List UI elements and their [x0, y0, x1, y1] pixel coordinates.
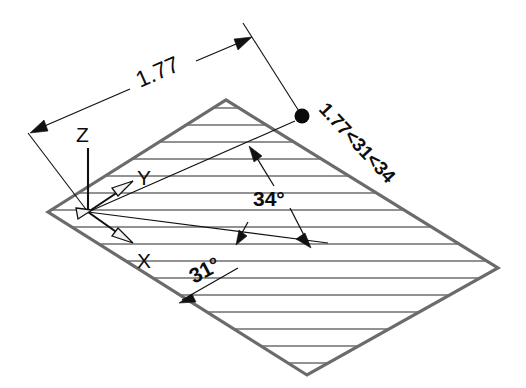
dimension-arrow-left-icon	[30, 120, 48, 133]
angle-34-label: 34°	[253, 187, 285, 210]
coordinate-point-marker	[295, 109, 310, 124]
axis-z-label: Z	[76, 123, 89, 146]
dimension-value: 1.77	[132, 51, 183, 93]
axis-x-label: X	[137, 249, 151, 272]
technical-drawing-canvas: 1.77 1.77<31<34 34° 31°	[0, 0, 526, 388]
axis-y-label: Y	[137, 166, 151, 189]
drawing-svg: 1.77 1.77<31<34 34° 31°	[0, 0, 526, 388]
dimension-arrow-right-icon	[234, 37, 252, 50]
